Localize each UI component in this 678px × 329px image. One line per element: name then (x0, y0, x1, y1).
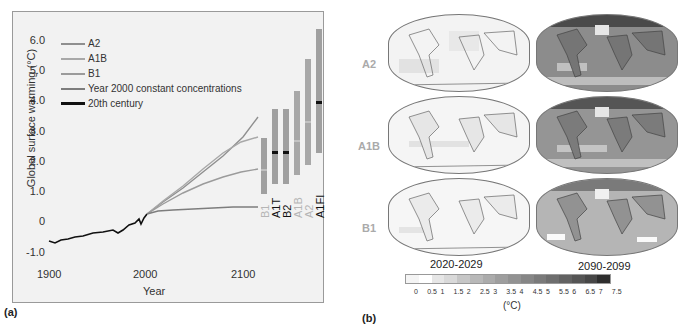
legend-item: A2 (61, 36, 242, 51)
warming-line-chart: Global surface warming (°C) 6.0 5.0 4.0 … (12, 11, 324, 303)
map-b1-2090 (536, 178, 678, 256)
legend-item: B1 (61, 66, 242, 81)
row-label-b1: B1 (362, 222, 376, 234)
colorbar-ticks: 0 0.5 1 1.5 2 2.5 3 3.5 4 4.5 5 5.5 6 6.… (414, 288, 625, 295)
row-label-a1b: A1B (358, 140, 380, 152)
legend-item: 20th century (61, 96, 242, 111)
colorbar-unit: (°C) (503, 300, 521, 311)
legend-item: Year 2000 constant concentrations (61, 81, 242, 96)
legend-item: A1B (61, 51, 242, 66)
row-label-a2: A2 (362, 58, 376, 70)
legend-swatch (61, 43, 85, 45)
colorbar (405, 274, 611, 284)
legend-swatch (61, 73, 85, 75)
warming-maps: A2 A1B B1 2020-2029 2090-2099 0 0.5 1 1.… (358, 0, 667, 329)
chart-legend: A2 A1B B1 Year 2000 constant concentrati… (61, 36, 242, 111)
map-a2-2020 (388, 14, 530, 92)
period-label-2090: 2090-2099 (578, 260, 631, 272)
panel-a-label: (a) (4, 306, 17, 318)
period-label-2020: 2020-2029 (430, 258, 483, 270)
map-a1b-2090 (536, 96, 678, 174)
bar-label: A1FI (314, 195, 326, 218)
map-a1b-2020 (388, 96, 530, 174)
legend-swatch (61, 58, 85, 60)
panel-b-label: (b) (362, 312, 376, 324)
map-b1-2020 (388, 178, 530, 256)
legend-swatch (61, 88, 85, 90)
map-a2-2090 (536, 14, 678, 92)
legend-swatch (61, 102, 85, 105)
